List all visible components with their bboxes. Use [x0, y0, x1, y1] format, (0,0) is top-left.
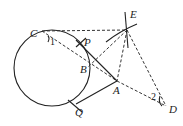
angle-label-1: 1	[50, 36, 55, 47]
label-C: C	[30, 27, 38, 39]
label-B: B	[80, 63, 87, 75]
segment-AQ	[76, 81, 117, 104]
label-E: E	[129, 8, 137, 20]
label-A: A	[112, 84, 120, 96]
segment-AD	[117, 81, 166, 106]
label-P: P	[83, 36, 91, 48]
arc-E-horizontal	[106, 24, 137, 42]
arc-C-angle	[48, 36, 49, 42]
label-D: D	[168, 103, 177, 115]
geometry-diagram: C E P B A Q D 1 2	[0, 0, 183, 126]
label-Q: Q	[75, 106, 83, 118]
angle-label-2: 2	[151, 91, 156, 102]
segment-ED	[127, 30, 166, 106]
